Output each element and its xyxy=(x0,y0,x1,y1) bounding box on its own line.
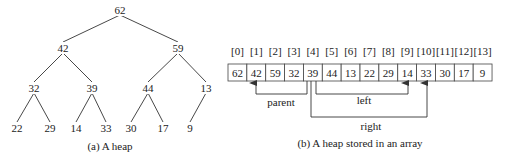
array-cell-value: 62 xyxy=(232,67,243,79)
tree-edge xyxy=(34,53,63,82)
array-cell-value: 22 xyxy=(364,67,375,79)
array-index-label: [12] xyxy=(455,45,473,57)
array-cell-value: 17 xyxy=(458,67,470,79)
array-cell-value: 14 xyxy=(402,67,414,79)
array-cells: 624259323944132229143330179 xyxy=(228,64,492,81)
left-label: left xyxy=(357,94,372,106)
parent-arrow: parent xyxy=(256,81,307,108)
array-index-label: [8] xyxy=(382,45,395,57)
tree-node: 14 xyxy=(71,122,83,134)
right-label: right xyxy=(361,120,382,132)
array-index-label: [4] xyxy=(306,45,319,57)
tree-edge xyxy=(148,53,178,82)
array-cell-value: 9 xyxy=(480,67,486,79)
array-index-label: [7] xyxy=(363,45,376,57)
tree-edge xyxy=(120,15,178,42)
array-cell-value: 39 xyxy=(307,67,319,79)
array-index-label: [6] xyxy=(344,45,357,57)
tree-node: 44 xyxy=(143,82,155,94)
parent-label: parent xyxy=(267,96,294,108)
array-index-label: [2] xyxy=(269,45,282,57)
tree-edge xyxy=(76,93,92,122)
tree-edge xyxy=(17,93,34,122)
array-cell-value: 32 xyxy=(289,67,300,79)
tree-node: 33 xyxy=(101,122,113,134)
tree-edge xyxy=(190,93,206,122)
array-cell-value: 29 xyxy=(383,67,395,79)
array-cell-value: 13 xyxy=(345,67,357,79)
tree-node: 59 xyxy=(173,42,185,54)
array-index-label: [0] xyxy=(231,45,244,57)
array-index-label: [5] xyxy=(325,45,338,57)
tree-node: 42 xyxy=(58,42,69,54)
tree-edge xyxy=(92,93,106,122)
right-arrow: right xyxy=(311,81,427,132)
tree-edge xyxy=(34,93,50,122)
array-index-label: [10] xyxy=(417,45,435,57)
left-arrow: left xyxy=(316,81,408,106)
array-index-label: [3] xyxy=(288,45,301,57)
tree-edge xyxy=(63,53,92,82)
tree-node: 17 xyxy=(158,122,170,134)
tree-edge xyxy=(178,53,206,82)
array-indices: [0][1][2][3][4][5][6][7][8][9][10][11][1… xyxy=(231,45,492,57)
tree-node: 62 xyxy=(115,4,126,16)
tree-node: 29 xyxy=(45,122,57,134)
tree-caption: (a) A heap xyxy=(87,140,133,153)
array-index-label: [11] xyxy=(436,45,454,57)
array-cell-value: 30 xyxy=(439,67,451,79)
array-cell-value: 33 xyxy=(421,67,433,79)
array-caption: (b) A heap stored in an array xyxy=(297,137,423,150)
tree-edges xyxy=(17,15,206,122)
array-cell-value: 42 xyxy=(251,67,262,79)
tree-nodes: 624259323944132229143330179 xyxy=(9,4,214,134)
tree-node: 9 xyxy=(187,122,193,134)
tree-node: 39 xyxy=(87,82,99,94)
array-index-label: [1] xyxy=(250,45,263,57)
tree-node: 30 xyxy=(126,122,138,134)
array-index-label: [9] xyxy=(401,45,414,57)
tree-node: 32 xyxy=(29,82,40,94)
tree-node: 13 xyxy=(201,82,213,94)
tree-edge xyxy=(148,93,163,122)
heap-diagram: 624259323944132229143330179 (a) A heap [… xyxy=(0,0,507,160)
tree-node: 22 xyxy=(12,122,23,134)
array-cell-value: 44 xyxy=(326,67,338,79)
array-index-label: [13] xyxy=(473,45,491,57)
array-cell-value: 59 xyxy=(270,67,282,79)
tree-edge xyxy=(63,15,120,42)
tree-edge xyxy=(131,93,148,122)
